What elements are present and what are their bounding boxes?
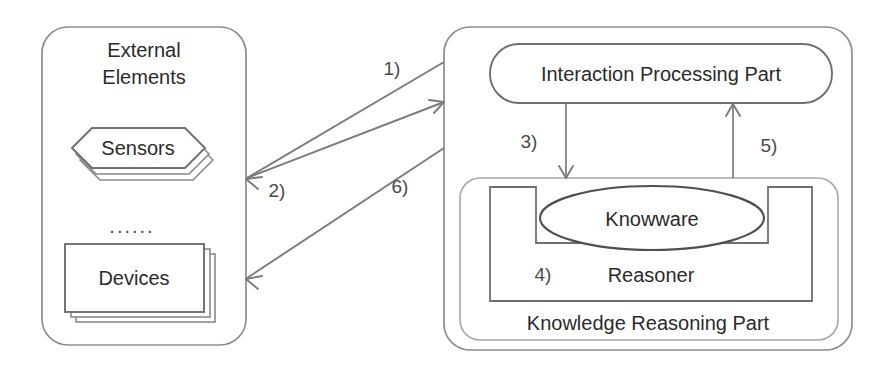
sensors-group[interactable]: Sensors — [72, 128, 213, 180]
flow-arrow-6: 6) — [246, 148, 444, 289]
interaction-processing-part[interactable]: Interaction Processing Part — [490, 44, 832, 103]
architecture-diagram: External Elements Sensors ...... Devices… — [0, 0, 890, 374]
external-elements-panel: External Elements Sensors ...... Devices — [42, 27, 246, 345]
step-2-label: 2) — [269, 180, 286, 201]
devices-label: Devices — [98, 267, 169, 289]
knowledge-reasoning-part[interactable]: 4) Reasoner Knowware Knowledge Reasoning… — [460, 178, 838, 340]
devices-group[interactable]: Devices — [65, 244, 215, 322]
reasoner-label: Reasoner — [608, 264, 695, 286]
diagram-canvas: External Elements Sensors ...... Devices… — [0, 0, 890, 374]
flow-arrow-2: 2) — [246, 62, 444, 201]
step-3-label: 3) — [521, 131, 538, 152]
flow-arrow-2-head — [246, 177, 262, 189]
interaction-processing-part-label: Interaction Processing Part — [541, 63, 782, 85]
knowware-node[interactable]: Knowware — [540, 186, 764, 250]
step-5-label: 5) — [761, 135, 778, 156]
step-6-label: 6) — [392, 176, 409, 197]
ellipsis-label: ...... — [109, 215, 154, 237]
external-elements-title-line1: External — [107, 39, 180, 61]
knowledge-reasoning-part-label: Knowledge Reasoning Part — [527, 312, 770, 334]
flow-arrow-2-line — [247, 62, 444, 178]
sensors-label: Sensors — [101, 137, 174, 159]
step-4-label: 4) — [535, 264, 552, 285]
system-panel: Interaction Processing Part 4) Reasoner … — [444, 27, 852, 350]
step-1-label: 1) — [384, 58, 401, 79]
external-elements-title-line2: Elements — [102, 66, 185, 88]
flow-arrow-6-head — [246, 276, 262, 289]
knowware-label: Knowware — [605, 208, 698, 230]
